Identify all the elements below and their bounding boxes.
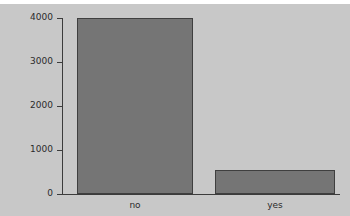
y-tick-label: 0 (0, 188, 53, 198)
chart-canvas: 01000200030004000 noyes (0, 0, 350, 216)
y-tick-label: 3000 (0, 56, 53, 66)
bar-no (77, 18, 193, 194)
y-tick-label: 4000 (0, 12, 53, 22)
y-axis-line (62, 18, 63, 195)
bar-chart-plot: 01000200030004000 noyes (0, 0, 350, 216)
y-tick-mark (57, 18, 62, 19)
y-tick-label: 1000 (0, 144, 53, 154)
y-tick-mark (57, 194, 62, 195)
x-category-label-no: no (77, 200, 193, 210)
y-tick-mark (57, 150, 62, 151)
bar-yes (215, 170, 335, 194)
y-tick-label: 2000 (0, 100, 53, 110)
x-category-label-yes: yes (215, 200, 335, 210)
y-tick-mark (57, 106, 62, 107)
x-axis-line (62, 194, 340, 195)
y-tick-mark (57, 62, 62, 63)
